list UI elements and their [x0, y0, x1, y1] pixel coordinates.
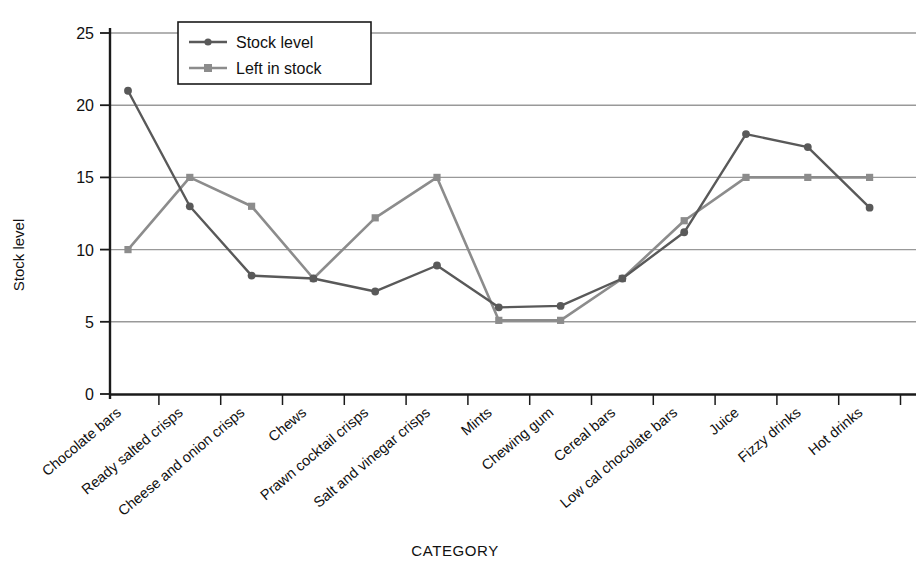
- data-point-marker: [433, 262, 441, 270]
- legend-marker-square-icon: [204, 64, 212, 72]
- data-point-marker: [557, 302, 565, 310]
- chart-canvas: 0510152025 Stock level CATEGORY Chocolat…: [0, 0, 918, 571]
- data-point-marker: [681, 217, 688, 224]
- data-point-marker: [742, 130, 750, 138]
- data-point-marker: [124, 87, 132, 95]
- data-point-marker: [557, 317, 564, 324]
- y-tick-label: 25: [76, 25, 94, 42]
- data-point-marker: [804, 174, 811, 181]
- data-point-marker: [619, 275, 627, 283]
- data-point-marker: [124, 246, 131, 253]
- data-point-marker: [495, 303, 503, 311]
- data-point-marker: [186, 174, 193, 181]
- data-point-marker: [433, 174, 440, 181]
- chart-legend: Stock level Left in stock: [178, 22, 371, 84]
- data-point-marker: [371, 288, 379, 296]
- x-axis-title: CATEGORY: [411, 542, 499, 559]
- y-tick-label: 10: [76, 242, 94, 259]
- data-point-marker: [310, 275, 318, 283]
- data-point-marker: [866, 204, 874, 212]
- data-point-marker: [495, 317, 502, 324]
- data-point-marker: [680, 228, 688, 236]
- y-tick-label: 20: [76, 97, 94, 114]
- chart-background: [0, 0, 918, 571]
- legend-marker-circle-icon: [204, 38, 211, 45]
- y-tick-label: 15: [76, 169, 94, 186]
- data-point-marker: [186, 202, 194, 210]
- y-tick-label: 0: [85, 386, 94, 403]
- data-point-marker: [742, 174, 749, 181]
- y-tick-label: 5: [85, 314, 94, 331]
- y-axis-title: Stock level: [10, 219, 27, 292]
- data-point-marker: [248, 272, 256, 280]
- data-point-marker: [248, 203, 255, 210]
- legend-label-1: Left in stock: [236, 60, 322, 77]
- data-point-marker: [866, 174, 873, 181]
- data-point-marker: [804, 143, 812, 151]
- data-point-marker: [372, 214, 379, 221]
- line-chart: 0510152025 Stock level CATEGORY Chocolat…: [0, 0, 918, 571]
- legend-label-0: Stock level: [236, 34, 313, 51]
